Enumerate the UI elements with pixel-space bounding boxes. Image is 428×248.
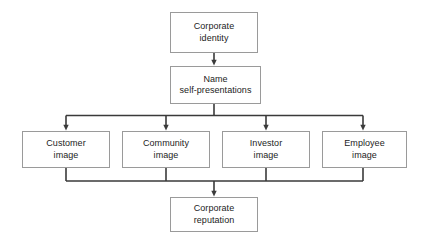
node-label-name-self-presentations: Name self-presentations xyxy=(178,74,254,97)
node-label-corporate-reputation: Corporate reputation xyxy=(192,203,237,226)
node-label-community-image: Community image xyxy=(141,138,191,161)
node-name-self-presentations[interactable]: Name self-presentations xyxy=(170,66,261,104)
node-investor-image[interactable]: Investor image xyxy=(222,131,310,168)
node-label-customer-image: Customer image xyxy=(44,138,87,161)
diagram-canvas: Corporate identity Name self-presentatio… xyxy=(0,0,428,248)
node-corporate-identity[interactable]: Corporate identity xyxy=(170,12,258,53)
node-label-employee-image: Employee image xyxy=(342,138,386,161)
node-label-investor-image: Investor image xyxy=(248,138,284,161)
node-community-image[interactable]: Community image xyxy=(122,131,210,168)
node-label-corporate-identity: Corporate identity xyxy=(192,21,236,44)
node-customer-image[interactable]: Customer image xyxy=(22,131,110,168)
node-employee-image[interactable]: Employee image xyxy=(322,131,407,168)
node-corporate-reputation[interactable]: Corporate reputation xyxy=(170,197,258,232)
